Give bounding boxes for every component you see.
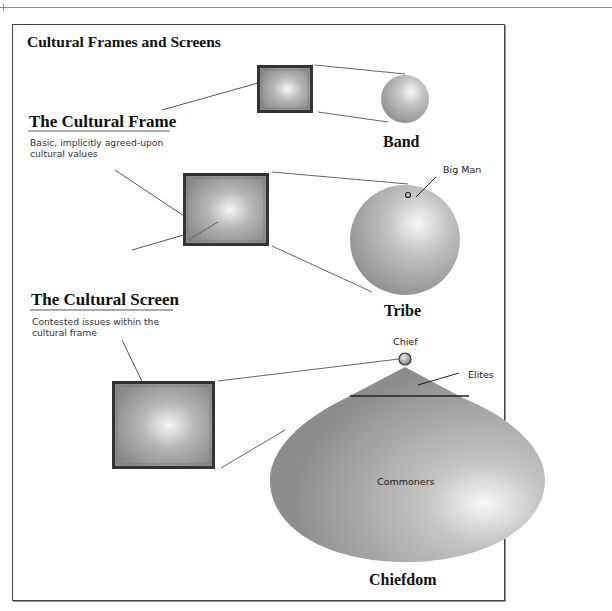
band-frame-square (259, 67, 312, 112)
frame-pointer-band (162, 83, 258, 110)
band-label: Band (383, 133, 420, 150)
commoners-label: Commoners (377, 476, 435, 487)
cultural-frames-diagram: Cultural Frames and Screens The Cultural… (0, 0, 612, 611)
chiefdom-frame-square (114, 383, 214, 468)
tribe-label: Tribe (384, 302, 421, 319)
frame-pointer-tribe (115, 170, 184, 216)
big-man-label: Big Man (443, 164, 481, 175)
tribe-connector-top (272, 172, 408, 184)
elites-label: Elites (468, 369, 494, 380)
cultural-screen-desc-2: cultural frame (32, 327, 97, 338)
cultural-screen-heading: The Cultural Screen (31, 290, 180, 309)
cultural-frame-heading: The Cultural Frame (29, 112, 177, 131)
chiefdom-connector-top (218, 359, 399, 381)
tribe-sphere (350, 185, 460, 295)
chief-label: Chief (393, 336, 418, 347)
cultural-screen-desc-1: Contested issues within the (32, 316, 159, 327)
chiefdom-label: Chiefdom (369, 571, 437, 588)
band-connector-top (315, 65, 405, 74)
tribe-frame-square (185, 175, 268, 245)
diagram-title: Cultural Frames and Screens (27, 33, 221, 50)
chief-marker (399, 353, 411, 365)
cultural-frame-desc-1: Basic, implicitly agreed-upon (30, 137, 163, 148)
band-connector-bottom (318, 112, 388, 122)
band-sphere (381, 75, 429, 123)
cultural-frame-desc-2: cultural values (30, 148, 98, 159)
